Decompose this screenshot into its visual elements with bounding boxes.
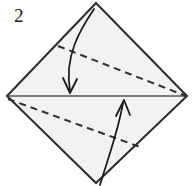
paper-diamond <box>7 3 187 183</box>
origami-step-figure: 2 <box>0 0 193 186</box>
step-number-label: 2 <box>14 6 24 26</box>
origami-diagram <box>0 0 193 186</box>
